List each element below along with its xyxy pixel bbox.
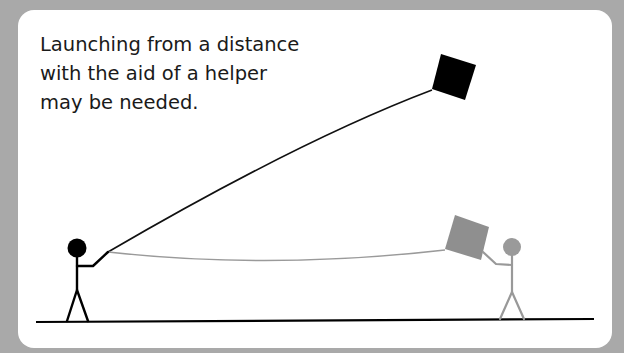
held-kite-string <box>108 250 445 261</box>
helper-head <box>503 238 521 256</box>
flying-kite-string <box>108 90 432 252</box>
kite-launch-diagram <box>0 0 624 353</box>
flying-kite <box>432 54 476 100</box>
ground-line <box>36 319 594 322</box>
launcher-stick-figure <box>67 239 108 322</box>
launcher-head <box>68 239 87 258</box>
held-kite <box>445 215 489 260</box>
helper-stick-figure <box>483 238 524 319</box>
